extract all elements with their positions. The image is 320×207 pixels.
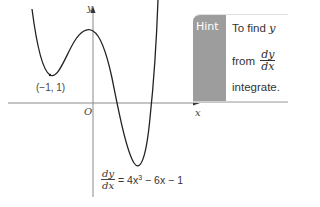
equation-rhs-prefix: = 4x (118, 174, 138, 186)
point-label: (−1, 1) (36, 82, 65, 93)
x-axis-label: x (195, 107, 201, 118)
hint-text: To find y from dydx integrate. (232, 15, 288, 101)
origin-label: O (84, 106, 92, 117)
equation-fraction: dy dx (101, 168, 115, 191)
hint-variable-y: y (269, 21, 276, 35)
hint-box: Hint To find y from dydx integrate. (193, 14, 288, 102)
equation-rhs-suffix: − 6x − 1 (142, 174, 183, 186)
hint-line-1: To find y (232, 21, 276, 35)
hint-line-3: integrate. (232, 81, 280, 93)
fraction-numerator: dy (101, 168, 115, 180)
minimum-point-marker (49, 74, 51, 76)
derivative-equation: dy dx = 4x3 − 6x − 1 (99, 168, 183, 191)
equation-rhs: = 4x3 − 6x − 1 (118, 174, 183, 186)
hint-line-2: from dydx (232, 49, 275, 72)
fraction-denominator: dx (101, 180, 115, 191)
y-axis-label: y (87, 2, 93, 13)
hint-fraction: dydx (260, 49, 275, 72)
hint-line-2-text: from (232, 55, 258, 67)
hint-tab: Hint (193, 15, 226, 101)
hint-line-1-text: To find (232, 22, 269, 34)
hint-fraction-denominator: dx (260, 61, 275, 72)
